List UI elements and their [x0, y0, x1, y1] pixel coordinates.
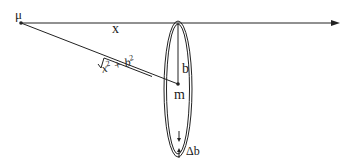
delta-b-label: Δb	[186, 145, 200, 157]
m-label: m	[174, 88, 185, 102]
delta-b-arrow-top-head	[177, 138, 181, 142]
x-axis-arrowhead	[331, 20, 340, 26]
x-label: x	[112, 22, 119, 36]
distance-line	[21, 23, 178, 84]
b-label: b	[182, 62, 189, 76]
mu-label: μ	[15, 8, 22, 21]
m-point	[176, 82, 180, 86]
diagram-canvas	[0, 0, 353, 159]
delta-b-arrow-bottom-head	[177, 148, 181, 152]
